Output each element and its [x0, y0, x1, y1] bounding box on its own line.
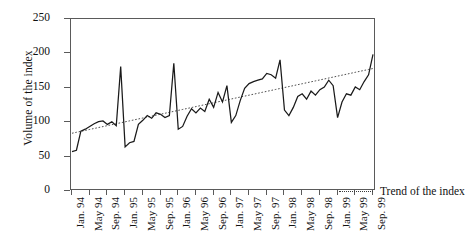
x-axis-tick-mark — [195, 190, 196, 195]
x-axis-tick-label: May 97 — [252, 197, 263, 231]
y-axis-tick-label: 250 — [0, 12, 50, 24]
y-axis-tick-label: 100 — [0, 115, 50, 127]
y-axis-tick-label: 0 — [0, 184, 50, 196]
x-axis-tick-mark — [266, 190, 267, 195]
x-axis-tick-label: Jan. 94 — [75, 197, 86, 228]
x-axis-tick-mark — [177, 190, 178, 195]
legend-trend-label: Trend of the index — [380, 185, 465, 197]
x-axis-tick-mark — [160, 190, 161, 195]
index-line-path — [72, 54, 373, 151]
x-axis-tick-label: May 96 — [199, 197, 210, 231]
legend-trend-swatch-icon — [339, 191, 373, 192]
x-axis-tick-mark — [124, 190, 125, 195]
x-axis-tick-mark — [142, 190, 143, 195]
x-axis-tick-label: Jan. 95 — [128, 197, 139, 228]
x-axis-tick-label: May 98 — [305, 197, 316, 231]
x-axis-tick-mark — [319, 190, 320, 195]
x-axis-tick-label: Jan. 99 — [341, 197, 352, 228]
x-axis-tick-label: Sep. 99 — [376, 197, 387, 230]
x-axis-tick-label: Jan. 97 — [234, 197, 245, 228]
x-axis-tick-mark — [71, 190, 72, 195]
y-axis-tick-label: 200 — [0, 47, 50, 59]
y-axis-tick-mark — [64, 190, 70, 191]
y-axis-tick-label: 150 — [0, 81, 50, 93]
x-axis-tick-mark — [337, 190, 338, 195]
chart-legend: Trend of the index — [339, 185, 465, 197]
x-axis-tick-label: Sep. 95 — [164, 197, 175, 230]
x-axis-tick-label: May 99 — [358, 197, 369, 231]
plot-area: Trend of the index — [70, 18, 375, 190]
x-axis-tick-label: Sep. 96 — [217, 197, 228, 230]
x-axis-tick-label: Jan. 96 — [181, 197, 192, 228]
x-axis-tick-label: Sep. 94 — [110, 197, 121, 230]
x-axis-tick-mark — [248, 190, 249, 195]
x-axis-tick-mark — [106, 190, 107, 195]
x-axis-tick-mark — [301, 190, 302, 195]
x-axis-tick-label: Sep. 97 — [270, 197, 281, 230]
x-axis-tick-mark — [89, 190, 90, 195]
x-axis-tick-label: May 95 — [146, 197, 157, 231]
x-axis-tick-mark — [230, 190, 231, 195]
y-axis-tick-label: 50 — [0, 150, 50, 162]
x-axis-tick-label: Jan. 98 — [287, 197, 298, 228]
x-axis-tick-mark — [213, 190, 214, 195]
x-axis-tick-label: Sep. 98 — [323, 197, 334, 230]
x-axis-tick-mark — [283, 190, 284, 195]
series-lines — [71, 19, 374, 189]
x-axis-tick-label: May 94 — [93, 197, 104, 231]
